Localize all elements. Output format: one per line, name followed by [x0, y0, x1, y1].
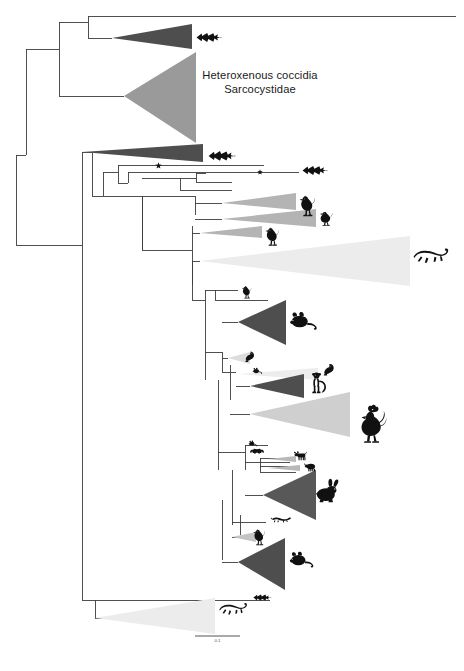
- mouse-clade-2: [238, 538, 285, 590]
- monkey-clade: [250, 374, 304, 398]
- dark-fish-clade-2: [82, 144, 203, 162]
- bottom-lizard-clade: [95, 598, 215, 634]
- scale-bar-label: 0.1: [198, 638, 238, 643]
- mouse-clade-1: [238, 300, 286, 345]
- sarcocystidae-clade: [124, 52, 196, 143]
- fish-icon: [197, 33, 223, 42]
- fish-icon: [209, 151, 237, 161]
- tree-branches: [16, 16, 456, 618]
- support-star: [155, 162, 161, 168]
- bird-clade-3: [200, 226, 262, 238]
- bird-small-icon: [253, 529, 265, 545]
- host-silhouettes: [197, 33, 449, 614]
- bird-clade-1: [222, 193, 296, 210]
- bird-clade-2: [222, 209, 316, 227]
- rabbit-icon: [316, 479, 338, 503]
- fish-icon: [303, 166, 329, 175]
- rabbit-clade: [263, 470, 316, 520]
- dark-fish-clade-1: [112, 24, 192, 49]
- squirrel-clade: [238, 368, 318, 380]
- small-light-clade: [232, 532, 256, 542]
- sarcocystidae-clade-label: Heteroxenous coccidia Sarcocystidae: [185, 68, 335, 96]
- tree-canvas: [0, 0, 464, 671]
- weasel-icon: [271, 517, 291, 522]
- phylogenetic-tree-figure: Heteroxenous coccidia Sarcocystidae 0.1: [0, 0, 464, 671]
- bird-small-icon: [242, 286, 251, 299]
- duck-icon: [320, 212, 333, 226]
- lizard-large-clade: [200, 236, 410, 286]
- bat-icon: [250, 449, 264, 454]
- rooster-clade: [250, 392, 350, 437]
- sheep-icon: [304, 464, 315, 472]
- cow-small-clade-1: [268, 456, 296, 462]
- support-star: [257, 169, 263, 174]
- lizard-icon: [414, 248, 449, 262]
- node-support-stars: [155, 162, 262, 174]
- bird-icon: [265, 227, 279, 245]
- lizard-icon: [219, 603, 247, 615]
- rooster-icon: [361, 405, 386, 443]
- squirrel-icon: [324, 364, 334, 376]
- mouse-icon: [290, 552, 313, 568]
- mouse-small-icon: [249, 441, 258, 447]
- collapsed-clade-triangles: [82, 24, 410, 634]
- mouse-icon: [290, 312, 317, 330]
